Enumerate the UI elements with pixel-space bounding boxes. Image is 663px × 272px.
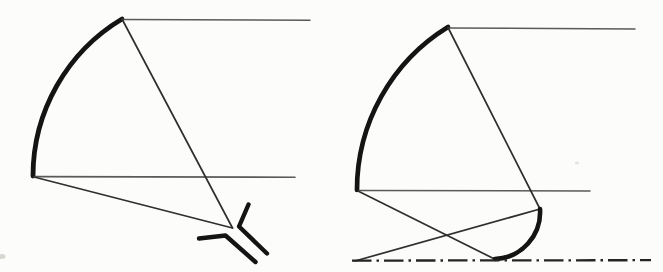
converging-ray-upper — [448, 28, 540, 210]
scan-speck — [0, 254, 6, 259]
reflected-ray-lower — [34, 177, 233, 228]
eyepiece-mark-upper — [239, 205, 267, 254]
primary-mirror-arc — [357, 27, 448, 190]
incoming-ray-bottom — [34, 177, 295, 178]
converging-ray-lower — [358, 191, 495, 259]
scan-speck — [575, 161, 579, 164]
incoming-ray-top — [448, 28, 635, 29]
incoming-ray-top — [122, 20, 310, 21]
herschelian-telescope-diagram — [33, 19, 310, 262]
telescope-ray-diagram-figure — [0, 0, 663, 272]
brachymedial-telescope-diagram — [352, 27, 651, 261]
reflected-ray-upper — [122, 19, 233, 228]
secondary-mirror-arc — [495, 209, 540, 259]
primary-mirror-arc — [33, 19, 122, 176]
scanned-figure-page — [0, 0, 663, 272]
eyepiece-mark-lower — [199, 236, 256, 263]
